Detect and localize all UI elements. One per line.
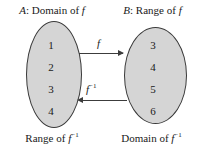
set-b-header-symbol: f: [179, 4, 182, 16]
set-a-member: 4: [39, 100, 63, 122]
set-b-header-text: Range of: [136, 4, 179, 16]
set-b-member: 4: [141, 56, 165, 78]
set-a-header-symbol: f: [82, 4, 85, 16]
set-a-members: 1 2 3 4: [39, 34, 63, 122]
set-a-label: A: [19, 4, 26, 16]
set-b-member: 3: [141, 34, 165, 56]
set-a-member: 1: [39, 34, 63, 56]
set-b-member: 6: [141, 100, 165, 122]
set-a-header-text: Domain of: [32, 4, 82, 16]
forward-arrow-head-icon: [118, 50, 124, 56]
forward-arrow-label: f: [97, 37, 100, 49]
set-b-footer-exponent: −1: [174, 131, 181, 139]
set-b-footer-text: Domain of: [121, 132, 171, 144]
set-a-member: 2: [39, 56, 63, 78]
forward-arrow-line: [79, 53, 123, 54]
set-a-member: 3: [39, 78, 63, 100]
set-b-footer: Domain of f−1: [100, 132, 203, 144]
inverse-arrow-line: [79, 100, 127, 101]
inverse-arrow-head-icon: [77, 97, 83, 103]
set-a-footer-text: Range of: [25, 132, 68, 144]
forward-arrow-label-symbol: f: [97, 37, 100, 49]
set-b-members: 3 4 5 6: [141, 34, 165, 122]
set-a-footer-exponent: −1: [71, 131, 78, 139]
function-inverse-diagram: A: Domain of f B: Range of f 1 2 3 4 3 4…: [0, 0, 203, 150]
set-a-footer: Range of f−1: [0, 132, 104, 144]
set-b-member: 5: [141, 78, 165, 100]
set-b-header: B: Range of f: [102, 4, 203, 16]
inverse-arrow-label-exponent: −1: [89, 82, 96, 90]
inverse-arrow-label: f−1: [86, 83, 97, 95]
set-a-header: A: Domain of f: [0, 4, 104, 16]
